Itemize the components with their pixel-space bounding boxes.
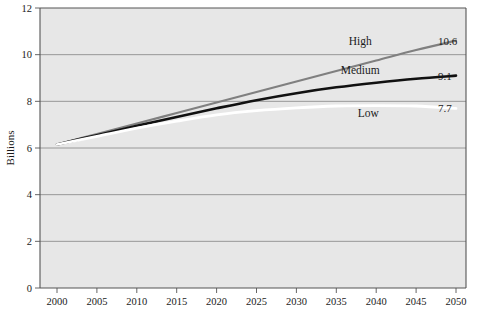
y-tick-label: 2 <box>27 236 32 247</box>
series-end-value: 9.1 <box>438 70 452 82</box>
figure-container: 024681012 200020052010201520202025203020… <box>0 0 479 328</box>
y-tick-label: 4 <box>27 189 33 200</box>
y-tick-label: 10 <box>22 49 33 60</box>
y-axis-title: Billions <box>4 131 16 166</box>
y-tick-label: 0 <box>27 283 32 294</box>
y-tick-label: 8 <box>27 96 32 107</box>
series-end-value: 7.7 <box>438 102 452 114</box>
x-axis: 2000200520102015202020252030203520402045… <box>47 288 467 307</box>
y-axis: 024681012 <box>22 3 41 294</box>
series-inline-label: High <box>349 35 372 48</box>
x-tick-label: 2005 <box>86 296 107 307</box>
x-tick-label: 2015 <box>166 296 187 307</box>
x-tick-label: 2020 <box>206 296 227 307</box>
series-inline-label: Low <box>358 107 380 119</box>
x-tick-label: 2050 <box>446 296 467 307</box>
x-tick-label: 2010 <box>126 296 147 307</box>
population-projection-line-chart: 024681012 200020052010201520202025203020… <box>0 0 479 328</box>
x-tick-label: 2000 <box>47 296 68 307</box>
series-inline-label: Medium <box>341 64 380 76</box>
x-tick-label: 2035 <box>326 296 347 307</box>
series-end-value: 10.6 <box>438 35 458 47</box>
x-tick-label: 2040 <box>366 296 387 307</box>
y-tick-label: 6 <box>27 143 32 154</box>
x-tick-label: 2025 <box>246 296 267 307</box>
x-tick-label: 2045 <box>406 296 427 307</box>
x-tick-label: 2030 <box>286 296 307 307</box>
y-tick-label: 12 <box>22 3 33 14</box>
